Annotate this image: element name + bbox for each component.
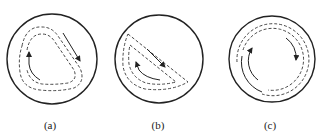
flow-arrow-left-up — [248, 48, 258, 80]
panel-label-a: (a) — [44, 119, 56, 131]
panel-c — [229, 16, 315, 102]
container-circle — [7, 14, 97, 104]
inner-dashed-arc — [243, 28, 304, 90]
panel-a — [7, 14, 97, 104]
outer-dashed-wedge — [123, 34, 188, 90]
panel-b — [115, 15, 203, 103]
flow-arrow-diagonal — [63, 33, 80, 61]
flow-arrow-right-down — [286, 38, 296, 60]
flow-diagram — [0, 0, 324, 138]
panel-label-b: (b) — [152, 119, 165, 131]
panel-label-c: (c) — [264, 119, 276, 131]
flow-arrow-up — [136, 62, 160, 80]
outer-dashed-arc — [237, 24, 309, 96]
flow-arrow-up — [29, 52, 40, 80]
flow-arrow-diagonal — [147, 49, 165, 67]
